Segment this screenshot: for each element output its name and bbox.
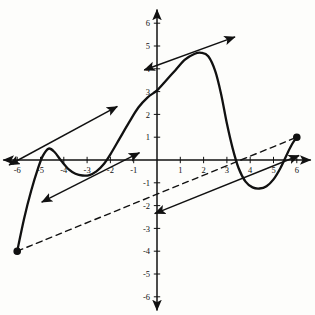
y-tick-label: -5	[143, 269, 150, 279]
tangent-at-left-max	[9, 106, 117, 165]
x-tick-label: 6	[295, 165, 299, 175]
y-tick-label: -4	[143, 246, 151, 256]
x-tick-label: -6	[14, 165, 21, 175]
coordinate-plane: -6-5-4-3-2-1123456654321-1-2-3-4-5-6	[0, 0, 315, 315]
y-tick-label: 6	[146, 18, 150, 28]
left-endpoint-marker	[14, 248, 20, 254]
x-tick-label: -3	[84, 165, 91, 175]
y-tick-label: -2	[143, 201, 150, 211]
y-tick-label: 1	[146, 132, 150, 142]
tangent-lines	[9, 37, 299, 214]
right-endpoint-marker	[294, 134, 300, 140]
y-tick-label: -1	[143, 178, 150, 188]
axes	[3, 10, 311, 311]
y-tick-label: 2	[146, 110, 150, 120]
tangent-at-right-max	[144, 37, 235, 70]
x-tick-label: -1	[130, 165, 137, 175]
x-tick-label: 1	[178, 165, 182, 175]
graph-figure: -6-5-4-3-2-1123456654321-1-2-3-4-5-6	[0, 0, 315, 315]
y-tick-label: -6	[143, 292, 150, 302]
y-tick-label: -3	[143, 224, 150, 234]
y-tick-label: 5	[146, 41, 150, 51]
x-tick-label: 2	[201, 165, 205, 175]
